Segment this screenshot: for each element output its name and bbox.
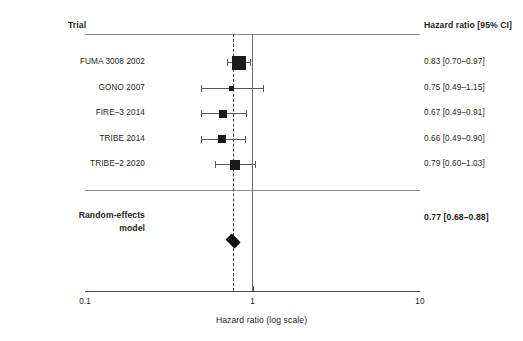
study-marker bbox=[232, 56, 246, 70]
ci-cap-lower bbox=[201, 85, 202, 92]
ci-cap-upper bbox=[250, 59, 251, 66]
study-ci-value: 0.67 [0.49–0.91] bbox=[424, 109, 485, 117]
summary-label-line2: model bbox=[79, 222, 145, 235]
study-ci-value: 0.79 [0.60–1.03] bbox=[424, 160, 485, 168]
study-label: TRIBE–2 2020 bbox=[90, 160, 145, 168]
x-axis-tick-label: 1 bbox=[233, 298, 273, 306]
study-label: TRIBE 2014 bbox=[99, 135, 145, 143]
study-ci-value: 0.83 [0.70–0.97] bbox=[424, 58, 485, 66]
x-axis-tick bbox=[253, 286, 254, 291]
x-axis-line bbox=[85, 291, 420, 292]
x-axis-title: Hazard ratio (log scale) bbox=[0, 316, 523, 325]
null-effect-line bbox=[252, 34, 253, 291]
summary-diamond-shape bbox=[226, 233, 242, 249]
forest-plot: Trial Hazard ratio [95% CI] FUMA 3008 20… bbox=[0, 0, 523, 341]
study-marker bbox=[219, 110, 227, 118]
study-marker bbox=[230, 160, 240, 170]
study-marker bbox=[229, 86, 234, 91]
column-header-hazard-ratio: Hazard ratio [95% CI] bbox=[424, 21, 512, 30]
ci-cap-lower bbox=[227, 59, 228, 66]
ci-cap-lower bbox=[201, 110, 202, 117]
column-header-trial: Trial bbox=[68, 21, 86, 30]
ci-cap-lower bbox=[201, 136, 202, 143]
summary-ci-value: 0.77 [0.68–0.88] bbox=[424, 213, 489, 222]
summary-label: Random-effects model bbox=[79, 209, 145, 234]
study-ci-value: 0.75 [0.49–1.15] bbox=[424, 84, 485, 92]
study-label: FUMA 3008 2002 bbox=[80, 58, 145, 66]
ci-cap-upper bbox=[263, 85, 264, 92]
study-marker bbox=[218, 135, 226, 143]
summary-label-line1: Random-effects bbox=[79, 209, 145, 222]
x-axis-tick-label: 0.1 bbox=[65, 298, 105, 306]
x-axis-tick-label: 10 bbox=[400, 298, 440, 306]
ci-cap-lower bbox=[215, 161, 216, 168]
study-ci-value: 0.66 [0.49–0.90] bbox=[424, 135, 485, 143]
study-label: GONO 2007 bbox=[99, 84, 145, 92]
ci-cap-upper bbox=[255, 161, 256, 168]
ci-cap-upper bbox=[245, 136, 246, 143]
ci-cap-upper bbox=[246, 110, 247, 117]
study-label: FIRE–3 2014 bbox=[96, 109, 145, 117]
summary-diamond bbox=[224, 235, 243, 248]
